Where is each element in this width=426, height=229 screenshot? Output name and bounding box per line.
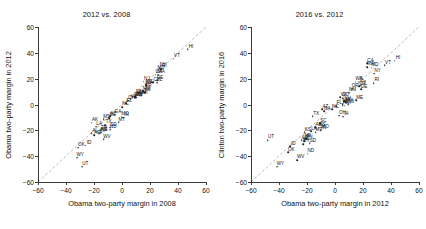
panel-title: 2012 vs. 2008 — [0, 10, 213, 19]
panel-2012-vs-2008: 2012 vs. 2008 Obama two-party margin in … — [0, 0, 213, 229]
y-tick-label: 20 — [240, 75, 247, 82]
data-point-label: NC — [332, 105, 339, 110]
data-point-label: VT — [385, 60, 391, 65]
figure-two-panel-scatter: 2012 vs. 2008 Obama two-party margin in … — [0, 0, 426, 229]
y-tick — [35, 27, 38, 28]
y-tick — [248, 79, 251, 80]
x-tick-label: −60 — [245, 187, 256, 194]
x-tick-label: 20 — [146, 187, 153, 194]
y-tick-label: 40 — [240, 49, 247, 56]
data-point-label: WY — [277, 162, 284, 167]
x-tick-label: 0 — [120, 187, 124, 194]
data-point-label: ND — [307, 149, 314, 154]
x-tick — [363, 182, 364, 185]
data-point-label: AL — [92, 128, 98, 133]
y-tick — [35, 130, 38, 131]
x-tick — [419, 182, 420, 185]
x-axis-title: Obama two-party margin in 2012 — [251, 199, 419, 208]
y-tick-label: −60 — [23, 179, 34, 186]
data-point-label: VT — [174, 54, 180, 59]
x-tick-label: −20 — [301, 187, 312, 194]
data-point-label: HI — [189, 44, 194, 49]
y-tick-label: −20 — [23, 127, 34, 134]
data-point-label: ME — [356, 96, 363, 101]
x-tick — [307, 182, 308, 185]
x-tick — [38, 182, 39, 185]
x-tick — [391, 182, 392, 185]
data-point-label: PA — [343, 101, 349, 106]
data-point-label: MT — [119, 117, 126, 122]
data-point-label: MT — [316, 128, 323, 133]
plot-area: Obama two-party margin in 2012 Obama two… — [38, 27, 206, 182]
data-point-label: KY — [303, 139, 309, 144]
data-point-label: ID — [87, 141, 92, 146]
y-tick — [35, 79, 38, 80]
data-point-label: ID — [291, 142, 296, 147]
data-point-label: AK — [92, 118, 98, 123]
x-tick-label: 0 — [333, 187, 337, 194]
data-point-label: KS — [305, 128, 311, 133]
x-tick-label: 40 — [174, 187, 181, 194]
x-tick-label: 60 — [202, 187, 209, 194]
x-tick — [335, 182, 336, 185]
x-tick — [122, 182, 123, 185]
y-tick-label: 0 — [243, 101, 247, 108]
data-point-label: NY — [374, 69, 380, 74]
data-point-label: NE — [101, 128, 107, 133]
data-point-label: NM — [349, 88, 356, 93]
data-point-label: UT — [82, 162, 88, 167]
x-tick-label: 60 — [415, 187, 422, 194]
y-tick-label: −40 — [236, 153, 247, 160]
y-tick-label: 0 — [30, 101, 34, 108]
data-point-label: ND — [110, 125, 117, 130]
x-tick-label: 20 — [359, 187, 366, 194]
x-tick-label: 40 — [387, 187, 394, 194]
y-tick-label: 40 — [27, 49, 34, 56]
data-point-label: OK — [288, 148, 295, 153]
data-point-label: GA — [324, 106, 331, 111]
y-tick — [35, 53, 38, 54]
data-point-label: SC — [109, 113, 115, 118]
panel-title: 2016 vs. 2012 — [213, 10, 426, 19]
y-tick — [248, 27, 251, 28]
data-point-label: HI — [396, 56, 401, 61]
x-tick — [150, 182, 151, 185]
x-tick-label: −20 — [88, 187, 99, 194]
data-point-label: WV — [297, 155, 304, 160]
y-tick-label: −60 — [236, 179, 247, 186]
data-point-label: OK — [78, 143, 85, 148]
y-axis-title: Obama two-party margin in 2012 — [4, 27, 13, 182]
data-point-label: UT — [268, 135, 274, 140]
y-tick — [35, 105, 38, 106]
data-point-label: TX — [106, 120, 112, 125]
data-point-label: NC — [122, 102, 129, 107]
x-tick — [206, 182, 207, 185]
y-axis-line — [38, 27, 39, 182]
x-tick — [178, 182, 179, 185]
y-tick — [248, 156, 251, 157]
data-point-label: NJ — [360, 81, 366, 86]
data-point-label: RI — [374, 78, 379, 83]
y-tick — [248, 105, 251, 106]
x-axis-title: Obama two-party margin in 2008 — [38, 199, 206, 208]
y-tick — [35, 156, 38, 157]
y-axis-title: Clinton two-party margin in 2016 — [217, 27, 226, 182]
plot-area: Clinton two-party margin in 2016 Obama t… — [251, 27, 419, 182]
data-point-label: WY — [76, 153, 83, 158]
x-tick-label: −60 — [32, 187, 43, 194]
y-tick-label: 60 — [240, 24, 247, 31]
y-tick-label: 60 — [27, 24, 34, 31]
y-tick-label: −40 — [23, 153, 34, 160]
data-point-label: IL — [158, 78, 162, 83]
x-tick — [251, 182, 252, 185]
x-tick — [66, 182, 67, 185]
x-tick — [94, 182, 95, 185]
x-tick-label: −40 — [273, 187, 284, 194]
data-point-label: TX — [313, 111, 319, 116]
data-point-label: IA — [344, 112, 348, 117]
data-point-label: WV — [103, 134, 110, 139]
y-axis-line — [251, 27, 252, 182]
x-tick-label: −40 — [60, 187, 71, 194]
data-point-label: SD — [310, 138, 316, 143]
y-tick — [248, 130, 251, 131]
